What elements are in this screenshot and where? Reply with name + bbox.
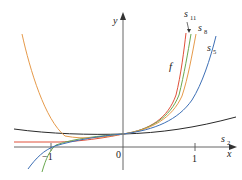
svg-text:s: s <box>184 8 188 19</box>
svg-text:s: s <box>207 42 211 53</box>
svg-text:11: 11 <box>190 14 196 21</box>
x-axis-label: x <box>226 148 232 159</box>
y-axis-arrow-icon <box>120 12 126 20</box>
svg-text:2: 2 <box>227 139 230 146</box>
label-s11: s 11 <box>184 8 196 33</box>
svg-text:s: s <box>198 22 202 33</box>
series-f <box>14 33 186 142</box>
series-s2 <box>14 117 236 134</box>
tick-label-0: 0 <box>116 149 121 160</box>
label-s2: s 2 <box>221 133 230 146</box>
svg-text:8: 8 <box>204 28 207 35</box>
series-s8 <box>22 34 196 138</box>
tick-label-1: 1 <box>192 153 197 164</box>
y-axis <box>120 12 126 170</box>
label-s8: s 8 <box>198 22 207 35</box>
svg-text:s: s <box>221 133 225 144</box>
label-f: f <box>169 60 174 72</box>
series-s5 <box>28 36 216 169</box>
tick-label-neg1: −1 <box>42 151 53 162</box>
chart: y x 0 1 −1 s 11 s 8 s 5 f s 2 <box>0 0 242 180</box>
svg-text:5: 5 <box>213 48 216 55</box>
y-axis-label: y <box>112 15 118 26</box>
